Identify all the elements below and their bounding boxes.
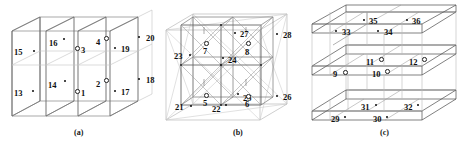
- panel-a-wireframe: [0, 0, 158, 142]
- node-label-18: 18: [146, 76, 155, 85]
- node-label-4: 4: [96, 38, 100, 47]
- node-label-1: 1: [81, 89, 85, 98]
- node-label-3: 3: [81, 46, 85, 55]
- panel-caption-a: (a): [74, 128, 83, 137]
- node-label-11: 11: [366, 58, 374, 67]
- node-marker-1: [75, 89, 80, 94]
- node-marker-12: [422, 57, 427, 62]
- panel-caption-c: (c): [380, 128, 389, 137]
- node-label-2: 2: [96, 80, 100, 89]
- node-label-33: 33: [342, 28, 351, 37]
- node-marker-4: [104, 36, 109, 41]
- node-label-20: 20: [146, 34, 155, 43]
- node-marker-5: [204, 93, 209, 98]
- node-label-8: 8: [245, 48, 249, 57]
- node-label-19: 19: [121, 45, 130, 54]
- node-marker-10: [385, 69, 390, 74]
- node-label-14: 14: [48, 81, 57, 90]
- node-marker-3: [75, 46, 80, 51]
- node-label-36: 36: [412, 17, 421, 26]
- node-label-34: 34: [384, 28, 393, 37]
- panel-b-wireframe: [163, 0, 303, 142]
- node-label-26: 26: [283, 93, 292, 102]
- node-marker-9: [343, 70, 348, 75]
- node-label-16: 16: [49, 39, 58, 48]
- node-label-23: 23: [174, 52, 183, 61]
- node-label-24: 24: [228, 56, 237, 65]
- node-label-15: 15: [14, 48, 23, 57]
- node-label-32: 32: [404, 103, 413, 112]
- node-marker-7: [204, 41, 209, 46]
- panel-a: [0, 0, 158, 142]
- node-label-6: 6: [245, 100, 249, 109]
- node-label-30: 30: [373, 115, 382, 124]
- node-label-28: 28: [283, 31, 292, 40]
- node-marker-8: [246, 41, 251, 46]
- node-label-27: 27: [240, 30, 249, 39]
- panel-caption-b: (b): [233, 128, 243, 137]
- figure-canvas: 15163419201314121718(a)23727828242526562…: [0, 0, 461, 142]
- node-label-17: 17: [121, 88, 130, 97]
- node-marker-2: [104, 78, 109, 83]
- panel-b: [163, 0, 303, 142]
- node-marker-6: [246, 94, 251, 99]
- node-label-5: 5: [203, 99, 207, 108]
- node-label-35: 35: [369, 17, 378, 26]
- node-label-10: 10: [372, 70, 381, 79]
- node-label-21: 21: [175, 103, 184, 112]
- node-label-9: 9: [333, 70, 337, 79]
- node-label-13: 13: [14, 89, 23, 98]
- node-label-29: 29: [331, 115, 340, 124]
- node-label-31: 31: [361, 103, 370, 112]
- node-marker-11: [379, 57, 384, 62]
- node-label-12: 12: [409, 58, 418, 67]
- node-label-7: 7: [203, 47, 207, 56]
- node-label-22: 22: [212, 105, 221, 114]
